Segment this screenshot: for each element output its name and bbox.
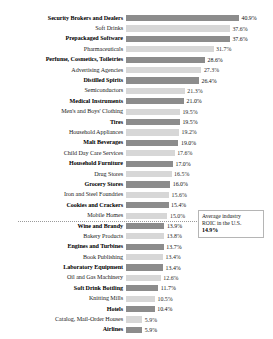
value-label: 13.8% [164, 233, 182, 239]
value-bar [126, 296, 155, 302]
category-label: Engines and Turbines [0, 243, 126, 250]
chart-row: Soft Drinks37.6% [0, 23, 273, 33]
chart-rows: Security Brokers and Dealers40.9%Soft Dr… [0, 13, 273, 335]
value-bar [126, 306, 155, 312]
category-label: Drug Stores [0, 171, 126, 178]
value-bar [126, 285, 158, 291]
bar-zone: 21.3% [126, 86, 273, 96]
value-label: 28.6% [205, 57, 223, 63]
value-bar [126, 192, 169, 198]
value-label: 15.4% [169, 202, 187, 208]
chart-row: Hotels10.4% [0, 304, 273, 314]
category-label: Airlines [0, 326, 126, 333]
chart-row: Laboratory Equipment13.4% [0, 262, 273, 272]
chart-row: Cookies and Crackers15.4% [0, 200, 273, 210]
bar-zone: 15.4% [126, 200, 273, 210]
chart-row: Book Publishing13.4% [0, 252, 273, 262]
chart-row: Household Furniture17.0% [0, 158, 273, 168]
value-label: 15.0% [167, 213, 185, 219]
bar-zone: 13.4% [126, 262, 273, 272]
value-label: 40.9% [239, 15, 257, 21]
callout-line1: Average industry [202, 213, 260, 220]
value-label: 15.6% [169, 192, 187, 198]
value-bar [126, 150, 175, 156]
chart-row: Pharmaceuticals31.7% [0, 44, 273, 54]
category-label: Hotels [0, 306, 126, 313]
chart-row: Soft Drink Bottling11.7% [0, 283, 273, 293]
bar-zone: 17.0% [126, 158, 273, 168]
bar-zone: 10.5% [126, 294, 273, 304]
bar-zone: 11.7% [126, 283, 273, 293]
bar-zone: 27.3% [126, 65, 273, 75]
bar-zone: 37.6% [126, 34, 273, 44]
value-label: 13.4% [163, 265, 181, 271]
chart-row: Semiconductors21.3% [0, 86, 273, 96]
value-label: 21.0% [184, 98, 202, 104]
category-label: Laboratory Equipment [0, 264, 126, 271]
bar-zone: 5.9% [126, 325, 273, 335]
value-label: 26.4% [199, 78, 217, 84]
value-bar [126, 98, 184, 104]
value-bar [126, 109, 180, 115]
bar-zone: 10.4% [126, 304, 273, 314]
value-bar [126, 88, 185, 94]
bar-zone: 19.5% [126, 107, 273, 117]
value-bar [126, 254, 163, 260]
value-bar [126, 327, 142, 333]
value-label: 5.9% [142, 317, 157, 323]
value-bar [126, 171, 172, 177]
chart-row: Tires19.5% [0, 117, 273, 127]
bar-zone: 21.0% [126, 96, 273, 106]
category-label: Oil and Gas Machinery [0, 274, 126, 281]
value-bar [126, 36, 230, 42]
bar-zone: 19.0% [126, 138, 273, 148]
value-bar [126, 129, 179, 135]
chart-row: Airlines5.9% [0, 325, 273, 335]
value-bar [126, 25, 230, 31]
value-label: 16.0% [170, 181, 188, 187]
bar-zone: 15.6% [126, 190, 273, 200]
value-label: 10.5% [155, 296, 173, 302]
chart-row: Malt Beverages19.0% [0, 138, 273, 148]
value-bar [126, 202, 169, 208]
value-bar [126, 244, 164, 250]
chart-row: Men's and Boys' Clothing19.5% [0, 107, 273, 117]
value-bar [126, 275, 161, 281]
chart-row: Perfume, Cosmetics, Toiletries28.6% [0, 55, 273, 65]
value-label: 37.6% [230, 26, 248, 32]
value-label: 37.6% [230, 36, 248, 42]
value-bar [126, 161, 173, 167]
value-bar [126, 57, 205, 63]
category-label: Medical Instruments [0, 98, 126, 105]
chart-row: Medical Instruments21.0% [0, 96, 273, 106]
category-label: Soft Drinks [0, 25, 126, 32]
category-label: Security Brokers and Dealers [0, 15, 126, 22]
chart-row: Iron and Steel Foundries15.6% [0, 190, 273, 200]
value-label: 13.4% [163, 254, 181, 260]
value-label: 16.5% [172, 171, 190, 177]
value-label: 27.3% [201, 67, 219, 73]
average-roic-callout: Average industry ROIC in the U.S. 14.9% [198, 210, 264, 238]
bar-zone: 13.7% [126, 242, 273, 252]
category-label: Bakery Products [0, 233, 126, 240]
bar-zone: 12.6% [126, 273, 273, 283]
category-label: Malt Beverages [0, 139, 126, 146]
category-label: Pharmaceuticals [0, 46, 126, 53]
category-label: Advertising Agencies [0, 67, 126, 74]
chart-row: Drug Stores16.5% [0, 169, 273, 179]
value-bar [126, 140, 178, 146]
chart-row: Engines and Turbines13.7% [0, 242, 273, 252]
value-bar [126, 46, 214, 52]
value-bar [126, 77, 199, 83]
category-label: Cookies and Crackers [0, 202, 126, 209]
category-label: Knitting Mills [0, 295, 126, 302]
bar-zone: 31.7% [126, 44, 273, 54]
value-label: 31.7% [214, 46, 232, 52]
value-bar [126, 181, 170, 187]
category-label: Book Publishing [0, 254, 126, 261]
category-label: Prepackaged Software [0, 35, 126, 42]
bar-zone: 37.6% [126, 23, 273, 33]
bar-zone: 19.5% [126, 117, 273, 127]
bar-zone: 17.6% [126, 148, 273, 158]
value-bar [126, 316, 142, 322]
